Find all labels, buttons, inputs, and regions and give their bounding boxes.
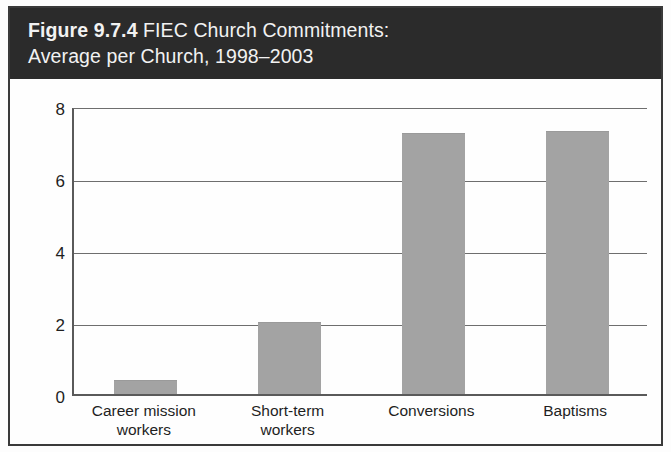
y-axis-tick-label: 2: [56, 317, 65, 334]
figure-title-text: FIEC Church Commitments:: [138, 19, 390, 41]
y-axis-tick-label: 6: [56, 173, 65, 190]
figure-bottom-rule: [10, 444, 661, 446]
x-axis-category-label: Conversions: [362, 401, 502, 420]
bar: [258, 322, 321, 394]
figure-title-line-2: Average per Church, 1998–2003: [28, 43, 661, 69]
x-axis-category-label-line: Baptisms: [505, 401, 645, 420]
x-axis-category-label: Baptisms: [505, 401, 645, 420]
y-axis-tick-label: 8: [56, 101, 65, 118]
x-axis-category-label-line: Career mission: [74, 401, 214, 420]
figure-title-line-1: Figure 9.7.4 FIEC Church Commitments:: [28, 17, 661, 43]
plot-box: 02468: [72, 108, 647, 396]
y-axis-tick-label: 0: [56, 389, 65, 406]
x-axis-category-label-line: workers: [218, 420, 358, 439]
x-axis-category-label: Short-termworkers: [218, 401, 358, 439]
bar: [546, 131, 609, 394]
y-axis-tick-label: 4: [56, 245, 65, 262]
figure-number: Figure 9.7.4: [28, 19, 138, 41]
bar: [114, 380, 177, 394]
bars-layer: [74, 109, 647, 394]
x-axis-category-label: Career missionworkers: [74, 401, 214, 439]
bar: [402, 133, 465, 394]
figure-title-band: Figure 9.7.4 FIEC Church Commitments: Av…: [10, 8, 661, 79]
figure-frame: Figure 9.7.4 FIEC Church Commitments: Av…: [8, 6, 663, 446]
figure-root: Figure 9.7.4 FIEC Church Commitments: Av…: [0, 0, 671, 452]
x-axis-category-label-line: workers: [74, 420, 214, 439]
x-axis-category-label-line: Short-term: [218, 401, 358, 420]
chart-plot-region: 02468 Career missionworkersShort-termwor…: [10, 79, 661, 444]
x-axis-labels: Career missionworkersShort-termworkersCo…: [72, 399, 647, 443]
x-axis-category-label-line: Conversions: [362, 401, 502, 420]
